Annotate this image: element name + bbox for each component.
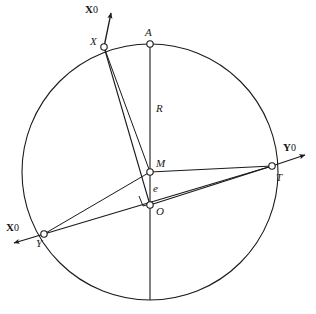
point-marker-x: [101, 44, 107, 50]
point-marker-o: [147, 202, 153, 208]
point-marker-m: [147, 169, 153, 175]
axis-label-x0-lower: X0: [6, 222, 19, 233]
label-radius-r: R: [156, 103, 163, 114]
axis-label-x0-lower-symbol: X: [6, 221, 14, 233]
point-marker-a: [147, 41, 153, 47]
axis-label-x0-upper: X0: [85, 4, 98, 15]
segment-y-to-m: [44, 172, 150, 234]
axis-label-y0-right: Y0: [283, 142, 296, 153]
axis-label-x0-upper-subscript: 0: [93, 4, 98, 15]
segment-x-to-m: [104, 47, 150, 172]
label-point-y: Y: [36, 238, 42, 249]
segment-x-to-o: [104, 47, 150, 205]
axis-label-x0-upper-symbol: X: [85, 3, 93, 15]
label-point-a: A: [145, 27, 152, 38]
segment-y-to-t-through-o: [44, 166, 272, 234]
axis-label-y0-right-symbol: Y: [283, 141, 291, 153]
point-marker-t: [269, 163, 275, 169]
label-point-m: M: [156, 158, 165, 169]
geometry-figure: A X Y T M O R e X0 Y0 X0: [0, 0, 316, 314]
label-eccentricity-e: e: [153, 183, 158, 194]
axis-label-x0-lower-subscript: 0: [14, 222, 19, 233]
label-point-o: O: [156, 206, 164, 217]
label-point-x: X: [90, 36, 97, 47]
label-point-t: T: [276, 172, 282, 183]
axis-label-y0-right-subscript: 0: [291, 142, 296, 153]
axis-ray-x0-upper: [104, 13, 111, 47]
